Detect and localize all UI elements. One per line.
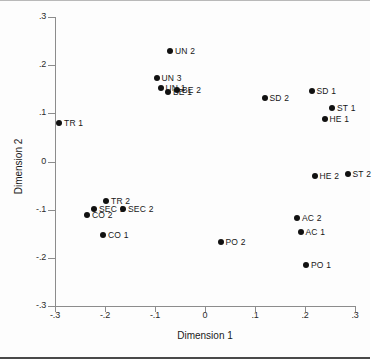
data-point	[312, 173, 318, 179]
data-point-label: PO 2	[226, 237, 246, 247]
data-point-label: TR 1	[64, 118, 83, 128]
data-point	[303, 262, 309, 268]
data-point	[84, 212, 90, 218]
data-point-label: HE 2	[320, 171, 340, 181]
y-tick-label: -.2	[22, 252, 46, 262]
y-tick-label: 0	[22, 156, 46, 166]
data-point	[294, 215, 300, 221]
x-axis-title: Dimension 1	[55, 330, 355, 341]
data-point-label: AC 2	[302, 213, 322, 223]
data-point	[103, 198, 109, 204]
data-point	[329, 105, 335, 111]
y-tick-mark	[48, 65, 55, 66]
y-tick-label: -.3	[22, 300, 46, 310]
x-tick-label: -.1	[138, 310, 172, 320]
data-point-label: ST 1	[337, 103, 356, 113]
data-point-label: PO 1	[311, 260, 331, 270]
x-tick-label: -.3	[38, 310, 72, 320]
data-point	[158, 85, 164, 91]
y-tick-label: .2	[22, 59, 46, 69]
x-tick-label: -.2	[88, 310, 122, 320]
data-point-label: UN 3	[162, 73, 182, 83]
data-point	[167, 48, 173, 54]
data-point-label: SD 2	[270, 93, 290, 103]
y-axis-line	[55, 17, 56, 306]
data-point	[154, 75, 160, 81]
data-point-label: UN 2	[175, 46, 195, 56]
data-point	[174, 87, 180, 93]
data-point	[345, 171, 351, 177]
data-point	[322, 116, 328, 122]
y-axis-title: Dimension 2	[13, 112, 24, 222]
plot-area: .3.2.10-.1-.2-.3 -.3-.2-.10.1.2.3 UN 2UN…	[0, 1, 370, 359]
data-point	[309, 88, 315, 94]
data-point-label: BE 2	[182, 85, 201, 95]
y-tick-mark	[48, 17, 55, 18]
data-point-label: ST 2	[353, 169, 372, 179]
y-tick-label: .3	[22, 11, 46, 21]
data-point	[100, 232, 106, 238]
x-tick-label: .1	[238, 310, 272, 320]
y-tick-mark	[48, 258, 55, 259]
y-tick-label: -.1	[22, 204, 46, 214]
y-tick-mark	[48, 113, 55, 114]
data-point-label: CO 1	[108, 230, 129, 240]
data-point	[165, 89, 171, 95]
data-point	[262, 95, 268, 101]
data-point-label: HE 1	[330, 114, 350, 124]
x-tick-label: .2	[288, 310, 322, 320]
y-tick-mark	[48, 162, 55, 163]
data-point-label: AC 1	[306, 227, 326, 237]
data-point	[218, 239, 224, 245]
x-tick-label: 0	[188, 310, 222, 320]
data-point	[120, 206, 126, 212]
y-tick-mark	[48, 210, 55, 211]
x-tick-label: .3	[338, 310, 372, 320]
data-point	[56, 120, 62, 126]
y-tick-mark	[48, 306, 55, 307]
data-point-label: SEC 2	[128, 204, 154, 214]
data-point-label: CO 2	[92, 210, 113, 220]
y-tick-label: .1	[22, 107, 46, 117]
data-point	[298, 229, 304, 235]
data-point-label: SD 1	[317, 86, 337, 96]
